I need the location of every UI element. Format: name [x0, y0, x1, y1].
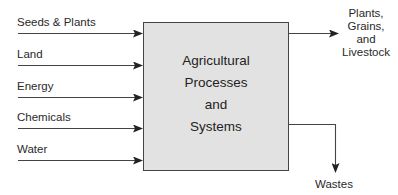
process-line-4: Systems — [182, 116, 250, 138]
product-line-4: Livestock — [338, 46, 394, 59]
output-label-products: Plants, Grains, and Livestock — [338, 7, 394, 59]
input-label-chemicals: Chemicals — [17, 111, 71, 123]
process-title: Agricultural Processes and Systems — [182, 50, 250, 144]
process-box: Agricultural Processes and Systems — [143, 22, 289, 171]
input-label-land: Land — [17, 48, 43, 60]
process-line-3: and — [182, 94, 250, 116]
input-label-energy: Energy — [17, 80, 53, 92]
product-line-3: and — [338, 33, 394, 46]
output-arrow-wastes — [289, 125, 336, 173]
product-line-1: Plants, — [338, 7, 394, 20]
process-line-2: Processes — [182, 72, 250, 94]
input-label-water: Water — [17, 143, 47, 155]
product-line-2: Grains, — [338, 20, 394, 33]
output-label-wastes: Wastes — [315, 178, 353, 190]
process-line-1: Agricultural — [182, 50, 250, 72]
input-label-seeds-plants: Seeds & Plants — [17, 16, 96, 28]
